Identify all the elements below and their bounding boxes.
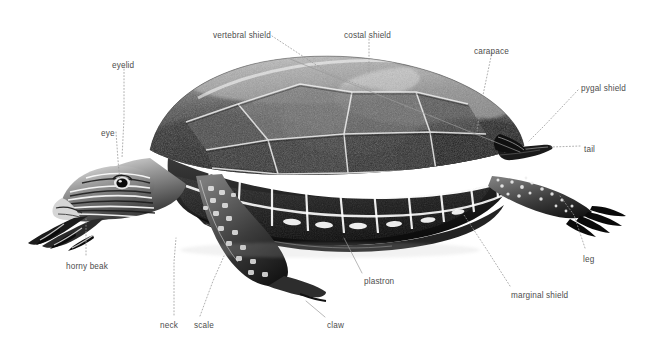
front-claws: [28, 216, 104, 251]
label-costal-shield: costal shield: [344, 31, 391, 41]
hind-leg: [488, 176, 626, 237]
label-claw: claw: [327, 321, 344, 331]
label-plastron: plastron: [364, 277, 394, 287]
label-vertebral-shield: vertebral shield: [213, 31, 271, 41]
label-eye: eye: [101, 129, 115, 139]
label-leg: leg: [583, 255, 594, 265]
carapace-shell: [140, 50, 545, 186]
label-neck: neck: [160, 321, 178, 331]
label-horny-beak: horny beak: [66, 262, 108, 272]
label-carapace: carapace: [474, 47, 509, 57]
anatomy-diagram: eyelideyevertebral shieldcostal shieldca…: [0, 0, 650, 349]
label-scale: scale: [194, 321, 214, 331]
label-marginal-shield: marginal shield: [511, 291, 568, 301]
head-and-neck: [28, 158, 186, 251]
label-tail: tail: [584, 145, 595, 155]
label-pygal-shield: pygal shield: [581, 84, 626, 94]
label-eyelid: eyelid: [112, 61, 134, 71]
